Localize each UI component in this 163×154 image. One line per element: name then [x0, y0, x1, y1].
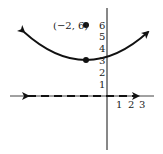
parabola-diagram: (−2, 6) 1 2 3 4 5 6 1 2 3 [0, 0, 163, 154]
x-tick-label: 2 [128, 99, 134, 110]
x-tick-label: 3 [139, 99, 145, 110]
y-tick-label: 1 [99, 79, 105, 90]
x-tick-label: 1 [116, 99, 122, 110]
y-tick-label: 2 [99, 67, 105, 78]
y-tick-label: 5 [99, 31, 105, 42]
y-tick-label: 6 [99, 20, 105, 31]
y-tick-label: 3 [99, 55, 105, 66]
vertex-point [83, 57, 89, 63]
focus-label: (−2, 6) [53, 20, 88, 31]
y-tick-label: 4 [99, 43, 105, 54]
parabola-curve [24, 32, 148, 60]
